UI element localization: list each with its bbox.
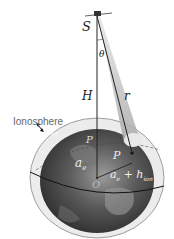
label-shell-radius: ae + hion (110, 169, 153, 182)
label-satellite: S (82, 20, 91, 33)
label-shell-height: hion (45, 126, 58, 136)
label-earth-radius: ae (75, 157, 86, 172)
label-pierce-inner: P (113, 150, 120, 161)
angle-arc (97, 39, 103, 40)
satellite-icon (85, 11, 112, 16)
beam-footprint (124, 133, 142, 147)
label-angle: θ (99, 50, 104, 59)
label-origin: O (92, 180, 100, 190)
label-height: H (82, 90, 92, 102)
label-range: r (124, 90, 130, 102)
label-pierce-outer: P (86, 135, 93, 145)
shell-height-sub: ion (50, 130, 58, 136)
